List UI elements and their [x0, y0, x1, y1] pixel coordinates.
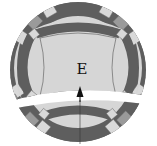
- center-label: E: [77, 60, 88, 78]
- quilt-diagram: E: [0, 0, 157, 146]
